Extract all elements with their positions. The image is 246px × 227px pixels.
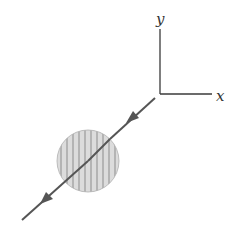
- diagram-canvas: y x: [0, 0, 246, 227]
- x-axis-label: x: [216, 87, 225, 105]
- arrowhead-upper-icon: [126, 111, 139, 123]
- coordinate-axes: y x: [155, 10, 225, 105]
- y-axis-label: y: [155, 10, 165, 28]
